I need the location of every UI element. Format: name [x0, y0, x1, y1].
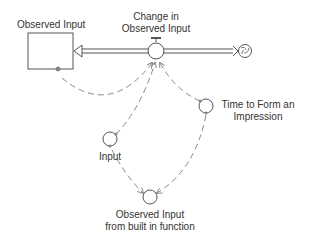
input-label: Input [96, 151, 124, 163]
stock-connector-dot [56, 67, 60, 71]
aux-observed-builtin[interactable] [143, 190, 157, 204]
time-label: Time to Form an Impression [213, 99, 303, 123]
output-label: Observed Input from built in function [100, 209, 200, 233]
output-label-line2: from built in function [100, 221, 200, 233]
flow-label: Change in Observed Input [116, 11, 196, 35]
flow-label-line2: Observed Input [116, 23, 196, 35]
cloud-icon [239, 45, 252, 58]
flow-valve[interactable] [148, 38, 164, 59]
time-label-line1: Time to Form an [213, 99, 303, 111]
stock-observed-input[interactable] [28, 33, 73, 69]
flow-label-line1: Change in [116, 11, 196, 23]
connectors [62, 63, 206, 193]
output-label-line1: Observed Input [100, 209, 200, 221]
time-label-line2: Impression [213, 111, 303, 123]
stock-label: Observed Input [17, 19, 85, 31]
